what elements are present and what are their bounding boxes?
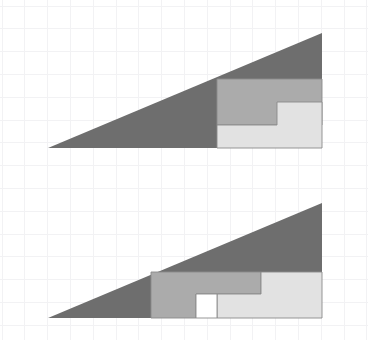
bottom-arrangement-panel	[48, 203, 322, 318]
figure-stage	[0, 0, 368, 340]
bottom-arrangement-square-hole	[196, 294, 217, 318]
top-arrangement-panel	[48, 33, 322, 148]
missing-square-figure	[0, 0, 368, 340]
